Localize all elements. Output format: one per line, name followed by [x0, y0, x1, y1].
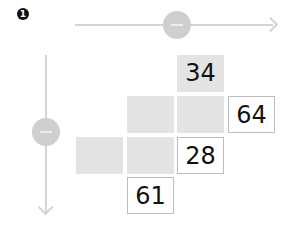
grid-cell-r3c1	[76, 137, 123, 174]
step-number-badge: 1	[17, 8, 29, 20]
grid-cell-r4c2: 61	[127, 177, 174, 214]
grid-cell-r2c3	[177, 96, 224, 133]
horizontal-slider-knob[interactable]	[163, 11, 191, 39]
grid-cell-r3c3: 28	[177, 137, 224, 174]
arrow-right-icon	[263, 17, 279, 33]
grid-cell-r2c4: 64	[228, 96, 275, 133]
grid-cell-r1c3: 34	[177, 55, 224, 92]
arrow-down-icon	[38, 200, 54, 216]
grid-cell-r2c2	[127, 96, 174, 133]
vertical-slider-knob[interactable]	[32, 118, 60, 146]
minus-icon	[171, 24, 183, 26]
grid-cell-r3c2	[127, 137, 174, 174]
minus-icon	[40, 131, 52, 133]
